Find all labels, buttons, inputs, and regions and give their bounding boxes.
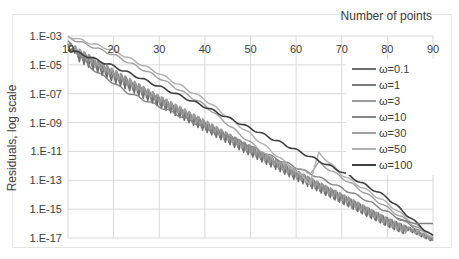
y-tick-label: 1.E-11 [30,145,62,157]
y-tick-label: 1.E-13 [30,174,62,186]
y-tick-label: 1.E-03 [30,30,62,42]
legend-label: ω=30 [379,127,406,139]
legend-label: ω=10 [379,111,406,123]
y-tick-label: 1.E-07 [30,88,62,100]
x-tick-label: 20 [108,43,120,55]
legend-label: ω=0.1 [379,63,409,75]
y-axis-ticks: 1.E-031.E-051.E-071.E-091.E-111.E-131.E-… [30,30,62,244]
legend-label: ω=100 [379,159,412,171]
legend-label: ω=3 [379,95,400,107]
legend-label: ω=1 [379,79,400,91]
legend-label: ω=50 [379,143,406,155]
legend: ω=0.1ω=1ω=3ω=10ω=30ω=50ω=100 [346,59,434,175]
y-tick-label: 1.E-15 [30,203,62,215]
y-axis-title: Residuals, log scale [5,84,19,191]
y-tick-label: 1.E-09 [30,117,62,129]
x-tick-label: 90 [427,43,439,55]
residuals-chart: 1.E-031.E-051.E-071.E-091.E-111.E-131.E-… [0,0,459,259]
x-tick-label: 40 [199,43,211,55]
x-axis-ticks: 102030405060708090 [62,43,439,55]
y-tick-label: 1.E-17 [30,232,62,244]
x-tick-label: 70 [336,43,348,55]
x-axis-title: Number of points [341,9,432,23]
x-tick-label: 80 [381,43,393,55]
x-tick-label: 60 [290,43,302,55]
y-tick-label: 1.E-05 [30,59,62,71]
x-tick-label: 30 [153,43,165,55]
x-tick-label: 10 [62,43,74,55]
x-tick-label: 50 [244,43,256,55]
